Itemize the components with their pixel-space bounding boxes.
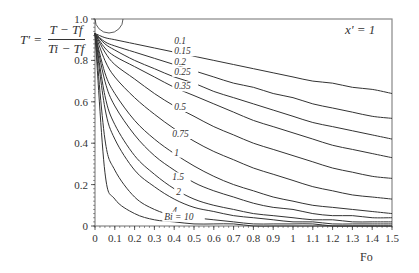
y-tick-label: 1.0 (74, 13, 88, 25)
x-tick-label: 0.5 (187, 232, 201, 244)
x-tick-label: 1.3 (346, 232, 360, 244)
curve-bi-0_15 (95, 33, 392, 118)
annotation-x-prime: x' = 1 (344, 22, 375, 37)
curve-labels: 0.10.150.20.250.350.50.7511.524Bi = 10 (162, 36, 205, 222)
x-tick-label: 0.4 (167, 232, 181, 244)
curve-label: 0.35 (174, 81, 191, 91)
x-tick-label: 1.4 (365, 232, 379, 244)
curves (95, 33, 392, 226)
x-tick-label: 0.8 (247, 232, 261, 244)
y-tick-label: 0.2 (74, 179, 88, 191)
curve-label: 0.75 (172, 129, 189, 139)
x-tick-label: 0.7 (227, 232, 241, 244)
x-tick-label: 0.9 (266, 232, 280, 244)
y-tick-label: 0.4 (74, 137, 88, 149)
x-axis-label: Fo (360, 250, 373, 264)
x-tick-label: 1.2 (326, 232, 340, 244)
curve-label: 0.2 (174, 57, 186, 67)
x-tick-label: 0.3 (148, 232, 162, 244)
curve-label: 1.5 (172, 172, 184, 182)
curve-label: 0.15 (174, 46, 191, 56)
y-tick-label: 0 (83, 220, 89, 232)
curve-label: 1 (174, 148, 179, 158)
curve-label: 2 (176, 187, 181, 197)
curve-label: 0.5 (174, 102, 186, 112)
x-tick-label: 1.1 (306, 232, 320, 244)
curve-label: 0.1 (174, 36, 186, 46)
y-tick-label: 0.8 (74, 54, 88, 66)
plot-frame (95, 19, 392, 226)
x-tick-label: 0.6 (207, 232, 221, 244)
curve-label: Bi = 10 (164, 212, 193, 222)
curve-label: 0.25 (174, 67, 191, 77)
y-tick-label: 0.6 (74, 96, 88, 108)
curve-bi-0_1 (95, 33, 392, 93)
x-tick-label: 1.5 (385, 232, 399, 244)
x-tick-label: 0.2 (128, 232, 142, 244)
curve-bi-0_75 (95, 33, 392, 213)
x-tick-label: 1 (290, 232, 296, 244)
x-tick-label: 0.1 (108, 232, 122, 244)
chart-plot: 00.10.20.30.40.50.60.70.80.911.11.21.31.… (0, 0, 419, 273)
x-tick-label: 0 (92, 232, 98, 244)
curve-bi-0_35 (95, 33, 392, 178)
